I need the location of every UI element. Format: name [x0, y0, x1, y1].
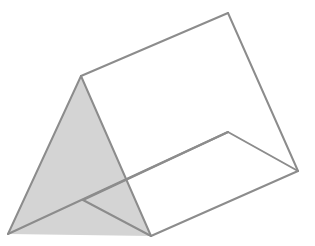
edge-front-right-to-back-right — [151, 171, 298, 236]
edge-back-left-to-back-right — [228, 132, 298, 171]
shaded-front-face — [8, 76, 151, 236]
prism-diagram — [0, 0, 315, 246]
prism-figure — [0, 0, 315, 246]
edge-back-apex-to-back-right — [228, 13, 298, 171]
edge-front-apex-to-back-apex — [81, 13, 228, 76]
